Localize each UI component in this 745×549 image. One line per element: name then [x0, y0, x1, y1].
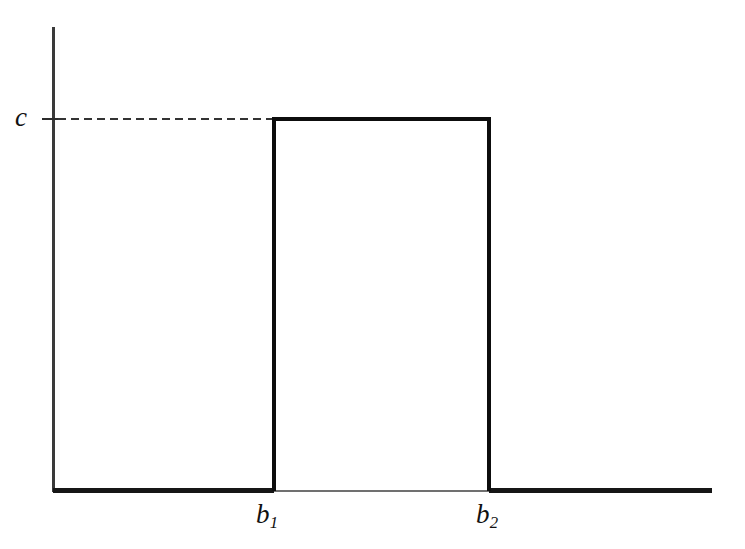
figure-canvas — [0, 0, 745, 549]
y-axis-label-c-text: c — [15, 102, 27, 132]
x-axis-label-b1: b1 — [256, 501, 278, 528]
x-axis-label-b2-base: b — [476, 499, 490, 529]
x-axis-label-b2: b2 — [476, 501, 498, 528]
y-axis-label-c: c — [15, 104, 27, 131]
uniform-density-rectangle — [274, 119, 489, 491]
uniform-density-figure: c b1 b2 — [0, 0, 745, 549]
x-axis-label-b2-subscript: 2 — [490, 513, 498, 532]
x-axis-label-b1-subscript: 1 — [270, 513, 278, 532]
x-axis-label-b1-base: b — [256, 499, 270, 529]
